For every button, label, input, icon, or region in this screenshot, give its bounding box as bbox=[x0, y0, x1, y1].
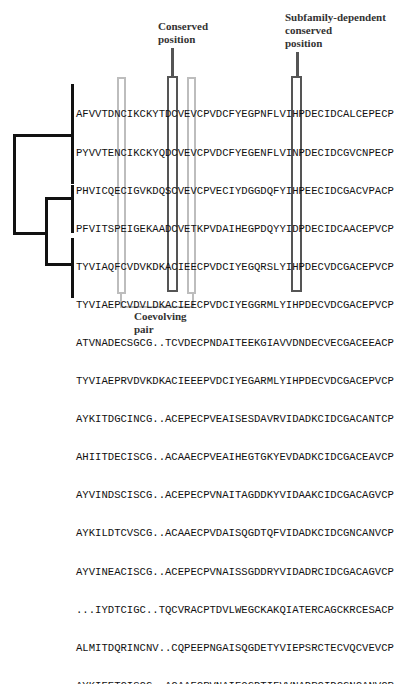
sequence-row: PYVVTENCIKCKYQDCVEVCPVDCFYEGENFLVINPDECI… bbox=[76, 147, 394, 160]
subfamily-pointer-line bbox=[296, 52, 299, 76]
tree-clade3-vertical bbox=[71, 238, 74, 298]
tree-root-top-horizontal bbox=[15, 134, 72, 137]
tree-clade3-horizontal bbox=[45, 263, 73, 266]
tree-root-bottom-horizontal bbox=[13, 232, 46, 235]
sequence-row: AYVINEACISCG..ACEPECPVNAISSGDDRYVIDADRCI… bbox=[76, 566, 394, 579]
sequence-row: ALMITDQRINCNV..CQPEEPNGAISQGDETYVIEPSRCT… bbox=[76, 642, 394, 655]
tree-clade2-vertical bbox=[71, 185, 74, 233]
sequence-row: AHIITDECISCG..ACAAECPVEAIHEGTGKYEVDADKCI… bbox=[76, 451, 394, 464]
sequence-alignment: AFVVTDNCIKCKYTDCVEVCPVDCFYEGPNFLVIHPDECI… bbox=[76, 83, 394, 684]
sequence-row: ...IYDTCIGC..TQCVRACPTDVLWEGCKAKQIATERCA… bbox=[76, 604, 394, 617]
subfamily-position-label: Subfamily-dependent conserved position bbox=[285, 11, 386, 50]
sequence-row: AYKITDGCINCG..ACEPECPVEAISESDAVRVIDADKCI… bbox=[76, 413, 394, 426]
sequence-row: TYVIAEPCVDVLDKACIEECPVDCIYEGGRMLYIHPDECV… bbox=[76, 299, 394, 312]
sequence-row: AYKILDTCVSCG..ACAAECPVDAISQGDTQFVIDADKCI… bbox=[76, 527, 394, 540]
tree-root-vertical bbox=[13, 134, 16, 234]
label-line: position bbox=[158, 33, 208, 46]
sequence-row: AFVVTDNCIKCKYTDCVEVCPVDCFYEGPNFLVIHPDECI… bbox=[76, 108, 394, 121]
sequence-row: PFVITSPEIGEKAADCVETKPVDAIHEGPDQYYIDPDECI… bbox=[76, 223, 394, 236]
label-line: Subfamily-dependent bbox=[285, 11, 386, 24]
label-line: conserved bbox=[285, 24, 386, 37]
sequence-row: ATVNADECSGCG..TCVDECPNDAITEEKGIAVVDNDECV… bbox=[76, 337, 394, 350]
sequence-row: AYKIEETCISCG..ACAAECPVNAIEQGDTIFVVNADRCI… bbox=[76, 680, 394, 684]
conserved-pointer-line bbox=[171, 48, 174, 76]
sequence-row: PHVICQECIGVKDQSCVEVCPVECIYDGGDQFYIHPEECI… bbox=[76, 185, 394, 198]
sequence-row: AYVINDSCISCG..ACEPECPVNAITAGDDKYVIDAAKCI… bbox=[76, 489, 394, 502]
tree-clade2-horizontal bbox=[45, 197, 73, 200]
label-line: Conserved bbox=[158, 20, 208, 33]
conserved-position-label: Conserved position bbox=[158, 20, 208, 46]
sequence-row: TYVIAEPRVDVKDKACIEEEPVDCIYEGARMLYIHPDECV… bbox=[76, 375, 394, 388]
sequence-row: TYVIAQFCVDVKDKACIEECPVDCIYEGQRSLYIHPDECV… bbox=[76, 261, 394, 274]
tree-inner-vertical bbox=[45, 197, 48, 265]
label-line: position bbox=[285, 37, 386, 50]
